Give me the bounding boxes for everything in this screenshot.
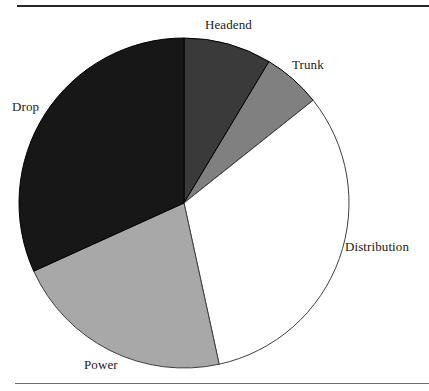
pie-slice-group [19,38,349,368]
pie-label-distribution: Distribution [345,240,409,253]
pie-label-headend: Headend [205,18,252,31]
pie-label-trunk: Trunk [292,58,324,71]
pie-label-drop: Drop [12,100,39,113]
pie-chart-canvas [0,0,429,391]
pie-label-power: Power [84,358,118,371]
bottom-divider-rule [15,383,429,384]
pie-chart-figure: Headend Trunk Distribution Drop Power [0,0,429,391]
